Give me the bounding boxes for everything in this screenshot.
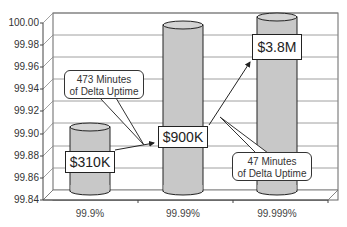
bar-99-99 [163,21,203,195]
callout-line: of Delta Uptime [65,86,143,98]
y-tick: 99.84 [0,195,39,205]
x-tick: 99.999% [237,208,317,219]
callout-47-minutes: 47 Minutes of Delta Uptime [232,152,312,181]
y-tick: 99.88 [0,151,39,161]
value-label-3-8m: $3.8M [252,34,302,60]
value-label-900k: $900K [158,126,208,148]
callout-473-minutes: 473 Minutes of Delta Uptime [64,70,144,99]
callout-line: 473 Minutes [65,74,143,86]
y-tick: 99.92 [0,106,39,116]
x-tick: 99.9% [50,208,130,219]
y-tick: 100.00 [0,18,39,28]
x-tick: 99.99% [143,208,223,219]
y-tick: 99.94 [0,84,39,94]
value-label-310k: $310K [65,151,115,173]
y-tick: 99.98 [0,40,39,50]
y-tick: 99.90 [0,129,39,139]
callout-line: of Delta Uptime [233,168,311,180]
y-tick: 99.86 [0,173,39,183]
callout-line: 47 Minutes [233,156,311,168]
y-tick: 99.96 [0,62,39,72]
